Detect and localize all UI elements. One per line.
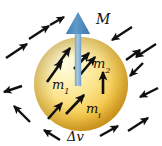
- field-arrow-e-upper: [130, 63, 143, 76]
- field-arrow-s: [44, 130, 60, 140]
- field-arrow-ne-inner: [112, 27, 132, 40]
- field-arrow-n: [50, 17, 64, 25]
- field-arrow-nw-inner: [29, 26, 49, 39]
- diagram-canvas: Mm1m2miΔv: [0, 0, 162, 146]
- field-arrow-nw-outer: [6, 44, 27, 58]
- field-arrow-sw-outer: [14, 106, 30, 122]
- magnetization-figure: Mm1m2miΔv: [0, 0, 162, 146]
- field-arrow-se-inner: [100, 126, 118, 136]
- field-arrow-se-outer: [128, 118, 148, 131]
- field-arrow-w: [4, 86, 22, 92]
- net-magnetization-label: M: [95, 11, 111, 27]
- net-magnetization-arrowhead: [66, 12, 90, 34]
- volume-element-label: Δv: [66, 129, 84, 144]
- field-arrow-e-lower: [140, 88, 158, 97]
